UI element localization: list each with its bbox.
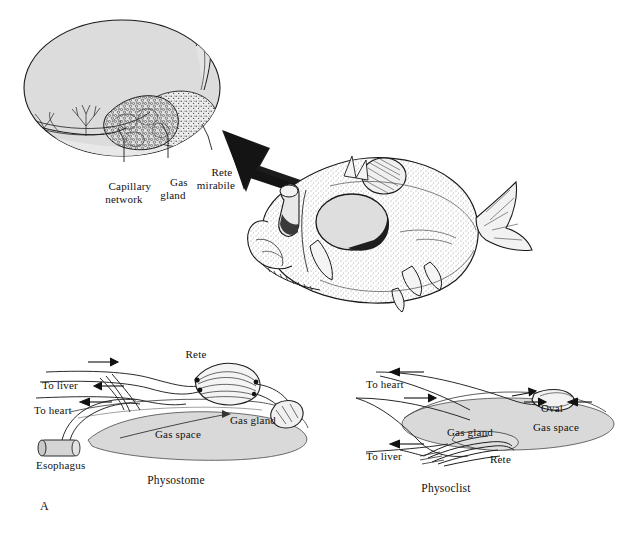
fish-tail: [476, 182, 532, 251]
physoclist-label-oval: Oval: [541, 402, 563, 414]
physostome-label-gas-gland: Gas gland: [230, 414, 276, 426]
physoclist-label-to-liver: To liver: [366, 450, 402, 462]
figure-root: Capillary network Gas gland Rete mirabil…: [0, 0, 635, 539]
physostome-diagram: [36, 358, 308, 460]
inset-label-rete-mirabile: Rete mirabile: [197, 154, 235, 203]
physostome-label-to-liver: To liver: [42, 379, 78, 391]
capillary-network-line1: Capillary network: [105, 180, 151, 204]
physostome-label-gas-space: Gas space: [155, 428, 201, 440]
physostome-label-rete: Rete: [186, 348, 207, 360]
physoclist-label-gas-gland: Gas gland: [447, 426, 493, 438]
illustration-layer: [0, 0, 635, 539]
physostome-rete: [194, 363, 260, 405]
physostome-esophagus: [38, 440, 80, 456]
fish-dorsal-organ: [362, 158, 406, 194]
physoclist-label-to-heart: To heart: [366, 378, 404, 390]
physostome-label-to-heart: To heart: [34, 404, 72, 416]
physoclist-caption: Physoclist: [421, 482, 470, 495]
arrow-heart: [390, 368, 424, 376]
arrow-in: [404, 394, 436, 402]
swim-bladder-inset: [20, 20, 224, 162]
inset-label-capillary-network: Capillary network: [97, 168, 152, 217]
fish-swim-bladder: [316, 194, 389, 251]
physostome-caption: Physostome: [147, 474, 205, 487]
panel-label-a: A: [40, 500, 49, 513]
physoclist-label-gas-space: Gas space: [533, 421, 579, 433]
rete-mirabile-text: Rete mirabile: [197, 166, 235, 190]
inset-label-gas-gland: Gas gland: [158, 164, 188, 213]
gas-gland-text: Gas gland: [160, 176, 188, 200]
fish-eye: [279, 184, 299, 236]
arrow-in: [88, 358, 118, 366]
physoclist-label-rete: Rete: [490, 453, 511, 465]
physostome-label-esophagus: Esophagus: [36, 459, 85, 471]
